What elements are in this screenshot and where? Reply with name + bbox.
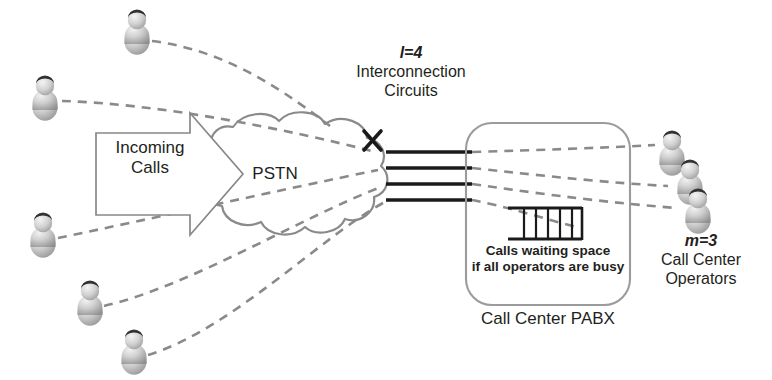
caller-icon-4 xyxy=(78,280,103,325)
operator-icon-1 xyxy=(660,130,685,175)
waiting-label-line2: if all operators are busy xyxy=(452,259,644,275)
incoming-label-line1: Incoming xyxy=(104,138,196,158)
caller-icon-2 xyxy=(33,75,58,120)
waiting-label-line1: Calls waiting space xyxy=(452,243,644,259)
operators-label-line2: Operators xyxy=(636,270,766,289)
interconnection-label-line1: Interconnection xyxy=(318,63,504,82)
pabx-label: Call Center PABX xyxy=(448,309,648,329)
waiting-space-label: Calls waiting space if all operators are… xyxy=(452,243,644,275)
interconnection-circuits-label: l=4 Interconnection Circuits xyxy=(318,44,504,101)
operators-label-line1: Call Center xyxy=(636,251,766,270)
caller-icon-5 xyxy=(122,329,147,374)
incoming-calls-label: Incoming Calls xyxy=(104,138,196,178)
pstn-label: PSTN xyxy=(232,164,318,184)
caller-icon-3 xyxy=(31,212,56,257)
operator-icon-3 xyxy=(686,188,711,233)
operator-icons-group xyxy=(660,130,711,233)
operators-param: m=3 xyxy=(636,232,766,251)
interconnection-label-line2: Circuits xyxy=(318,82,504,101)
interconnection-param: l=4 xyxy=(318,44,504,63)
caller-icon-1 xyxy=(125,9,150,54)
operators-label: m=3 Call Center Operators xyxy=(636,232,766,289)
incoming-label-line2: Calls xyxy=(104,158,196,178)
call-center-diagram: l=4 Interconnection Circuits PSTN Incomi… xyxy=(0,0,772,380)
interconnection-circuits-group xyxy=(386,152,472,200)
